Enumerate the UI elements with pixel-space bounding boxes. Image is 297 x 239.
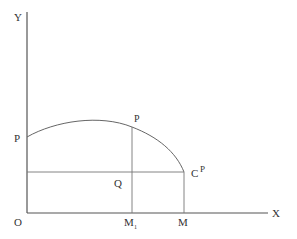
point-label-m: M bbox=[178, 216, 188, 228]
point-label-q: Q bbox=[114, 177, 122, 189]
y-axis-label: Y bbox=[14, 11, 22, 23]
x-axis-label: X bbox=[272, 207, 280, 219]
diagram-canvas: Y X O P P Q C P M 1 M bbox=[0, 0, 297, 239]
point-label-p-curve: P bbox=[134, 113, 140, 124]
point-label-p-intercept: P bbox=[14, 132, 20, 144]
point-label-c-superscript: P bbox=[200, 164, 205, 174]
curve-arc bbox=[27, 120, 184, 172]
point-label-c: C bbox=[191, 167, 198, 179]
origin-label: O bbox=[14, 216, 22, 228]
point-label-m1-subscript: 1 bbox=[134, 224, 137, 230]
point-label-m1: M bbox=[124, 216, 134, 228]
